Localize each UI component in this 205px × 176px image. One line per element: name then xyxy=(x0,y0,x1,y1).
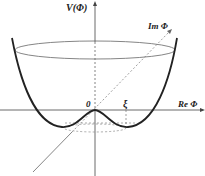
im-axis-solid xyxy=(33,132,72,172)
im-axis-dashed xyxy=(72,31,170,132)
re-axis-label: Re Φ xyxy=(177,99,197,109)
v-axis-arrow-icon xyxy=(93,1,97,6)
y-axis-label: V(Φ) xyxy=(66,2,87,14)
mexican-hat-potential-diagram: V(Φ) Im Φ Re Φ 0 ξ xyxy=(0,0,205,176)
re-axis-arrow-icon xyxy=(200,108,205,112)
potential-curve xyxy=(12,38,177,127)
origin-label: 0 xyxy=(86,99,91,109)
im-axis-label: Im Φ xyxy=(147,21,168,31)
minimum-xi-label: ξ xyxy=(123,98,128,110)
